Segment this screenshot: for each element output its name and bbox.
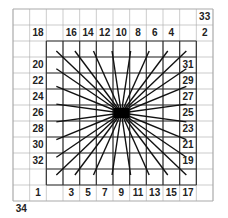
radial-line [121, 113, 186, 175]
grid-label: 18 [30, 27, 46, 39]
grid-label: 30 [30, 139, 46, 151]
grid-label: 22 [30, 75, 46, 87]
grid-label: 10 [113, 27, 129, 39]
grid-label: 4 [163, 27, 179, 39]
grid-label: 6 [147, 27, 163, 39]
radial-line [121, 51, 186, 113]
grid-label: 17 [180, 187, 196, 199]
radial-line [56, 51, 121, 113]
grid-label: 27 [180, 91, 196, 103]
grid-label: 7 [97, 187, 113, 199]
grid-label: 12 [97, 27, 113, 39]
grid-label: 3 [63, 187, 79, 199]
grid-label: 24 [30, 91, 46, 103]
grid-label: 16 [63, 27, 79, 39]
grid-label: 28 [30, 123, 46, 135]
grid-label: 13 [147, 187, 163, 199]
grid-label: 1 [30, 187, 46, 199]
grid-label: 19 [180, 155, 196, 167]
center-hub [113, 108, 129, 118]
grid-label: 34 [13, 203, 29, 215]
grid-label: 15 [163, 187, 179, 199]
grid-label: 20 [30, 59, 46, 71]
grid-label: 8 [130, 27, 146, 39]
grid-label: 32 [30, 155, 46, 167]
grid-label: 33 [197, 11, 213, 23]
grid-label: 23 [180, 123, 196, 135]
grid-label: 9 [113, 187, 129, 199]
radial-grid-diagram: 3318161412108642202224262830323129272523… [0, 0, 228, 218]
grid-label: 5 [80, 187, 96, 199]
grid-label: 21 [180, 139, 196, 151]
radial-line [56, 113, 121, 175]
grid-label: 31 [180, 59, 196, 71]
grid-label: 14 [80, 27, 96, 39]
grid-label: 2 [197, 27, 213, 39]
grid-label: 26 [30, 107, 46, 119]
grid-label: 11 [130, 187, 146, 199]
grid-label: 29 [180, 75, 196, 87]
grid-label: 25 [180, 107, 196, 119]
